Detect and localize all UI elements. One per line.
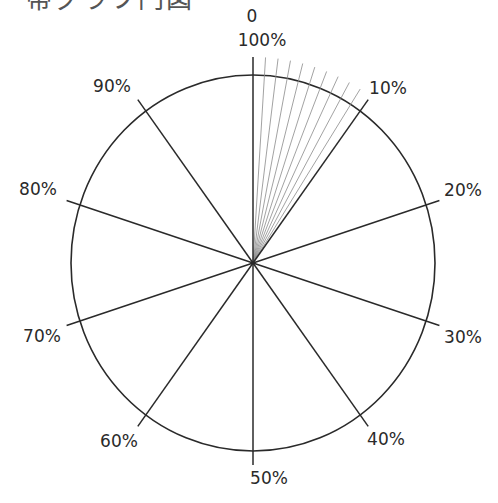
label-50: 50%: [250, 470, 288, 487]
label-zero: 0: [247, 8, 258, 25]
minor-tick-line: [253, 71, 327, 263]
minor-tick-line: [253, 77, 338, 263]
label-40: 40%: [367, 431, 405, 448]
major-tick-line: [253, 263, 439, 325]
label-100: 100%: [238, 32, 287, 49]
label-70: 70%: [23, 328, 61, 345]
minor-tick-line: [253, 63, 303, 263]
label-20: 20%: [444, 182, 482, 199]
major-tick-line: [253, 263, 368, 426]
label-90: 90%: [93, 78, 131, 95]
major-tick-line: [67, 201, 253, 263]
minor-tick-line: [253, 57, 266, 263]
label-10: 10%: [369, 80, 407, 97]
label-30: 30%: [444, 329, 482, 346]
major-tick-line: [67, 263, 253, 325]
percentage-circle: [0, 0, 498, 503]
major-tick-line: [138, 100, 253, 263]
label-80: 80%: [19, 181, 57, 198]
label-60: 60%: [100, 433, 138, 450]
major-tick-line: [138, 263, 253, 426]
